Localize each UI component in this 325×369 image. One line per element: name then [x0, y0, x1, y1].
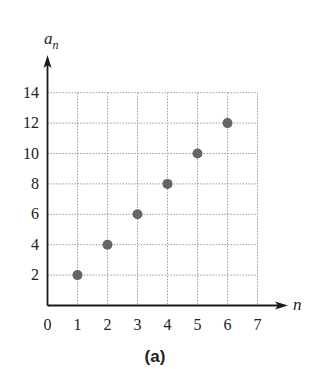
x-tick-label: 6 — [224, 316, 232, 333]
y-tick-label: 12 — [23, 114, 39, 131]
y-tick-label: 6 — [31, 205, 39, 222]
data-point — [103, 240, 113, 250]
x-tick-label: 5 — [194, 316, 202, 333]
data-point — [133, 209, 143, 219]
y-axis-label: an — [44, 29, 59, 52]
y-tick-label: 10 — [23, 145, 39, 162]
x-tick-label: 7 — [254, 316, 262, 333]
x-tick-label: 0 — [44, 316, 52, 333]
x-tick-label: 3 — [134, 316, 142, 333]
data-point — [163, 179, 173, 189]
data-point — [193, 149, 203, 159]
x-tick-label: 1 — [74, 316, 82, 333]
x-axis-label: n — [293, 295, 302, 314]
scatter-plot: 012345672468101214 an n (a) — [0, 0, 325, 369]
data-point — [73, 270, 83, 280]
x-tick-label: 2 — [104, 316, 112, 333]
figure-caption: (a) — [145, 347, 166, 366]
y-tick-label: 4 — [31, 236, 39, 253]
x-tick-label: 4 — [164, 316, 172, 333]
y-tick-label: 2 — [31, 266, 39, 283]
data-points — [73, 118, 233, 280]
data-point — [223, 118, 233, 128]
y-tick-label: 8 — [31, 175, 39, 192]
axis-labels: an n (a) — [44, 29, 302, 366]
chart: 012345672468101214 an n (a) — [0, 0, 325, 369]
y-tick-label: 14 — [23, 84, 39, 101]
